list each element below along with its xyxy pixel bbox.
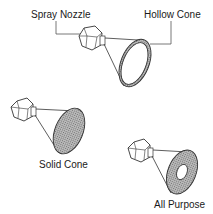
- spray-nozzle-leader-line: [56, 21, 81, 34]
- hollow-cone-ring-icon: [113, 35, 158, 92]
- all-purpose-nozzle: [128, 139, 204, 199]
- spray-nozzle-label: Spray Nozzle: [31, 9, 90, 20]
- solid-cone-spray-icon: [47, 104, 91, 159]
- spray-nozzle-diagram: [0, 0, 213, 214]
- all-purpose-label: All Purpose: [154, 199, 205, 210]
- hollow-cone-nozzle: [79, 26, 157, 91]
- all-purpose-spray-icon: [160, 145, 203, 198]
- solid-cone-nozzle: [11, 98, 91, 158]
- hex-nut-icon: [11, 98, 36, 121]
- hex-nut-icon: [128, 139, 153, 162]
- hollow-cone-label: Hollow Cone: [144, 9, 201, 20]
- hex-nut-icon: [79, 26, 105, 50]
- solid-cone-label: Solid Cone: [39, 159, 88, 170]
- hollow-cone-leader-line: [150, 21, 171, 44]
